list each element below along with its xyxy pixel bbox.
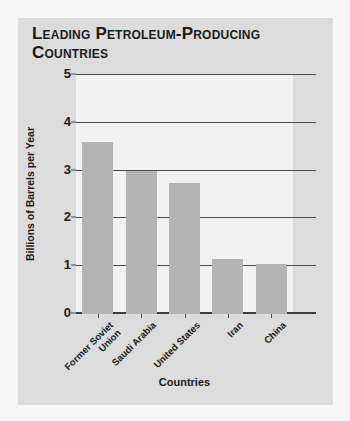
x-axis-tick-mark bbox=[271, 314, 272, 318]
x-axis-title: Countries bbox=[76, 376, 293, 388]
bar bbox=[169, 183, 200, 314]
x-axis-tick-mark bbox=[98, 314, 99, 318]
bar bbox=[212, 259, 243, 314]
bar bbox=[126, 171, 157, 314]
gridline bbox=[76, 122, 316, 123]
y-axis-tick-mark bbox=[71, 74, 76, 75]
y-axis-tick-label: 5 bbox=[64, 66, 71, 81]
figure-card: Leading Petroleum-Producing Countries Bi… bbox=[18, 18, 333, 405]
x-axis-tick-mark bbox=[141, 314, 142, 318]
y-axis-tick-mark bbox=[71, 313, 76, 314]
plot-frame: Billions of Barrels per Year 012345 Form… bbox=[76, 74, 316, 314]
y-axis-tick-mark bbox=[71, 265, 76, 266]
gridline bbox=[76, 74, 316, 75]
y-axis-tick-mark bbox=[71, 121, 76, 122]
y-axis-tick-label: 2 bbox=[64, 210, 71, 225]
y-axis-title: Billions of Barrels per Year bbox=[24, 127, 36, 261]
y-axis-tick-mark bbox=[71, 217, 76, 218]
bar bbox=[256, 264, 287, 314]
bar bbox=[82, 142, 113, 314]
chart-title: Leading Petroleum-Producing Countries bbox=[32, 24, 322, 63]
x-axis-tick-mark bbox=[185, 314, 186, 318]
y-axis-tick-label: 4 bbox=[64, 114, 71, 129]
y-axis-tick-mark bbox=[71, 169, 76, 170]
x-axis-tick-mark bbox=[228, 314, 229, 318]
y-axis-tick-label: 1 bbox=[64, 257, 71, 272]
y-axis-tick-label: 3 bbox=[64, 162, 71, 177]
y-axis-tick-label: 0 bbox=[64, 305, 71, 320]
